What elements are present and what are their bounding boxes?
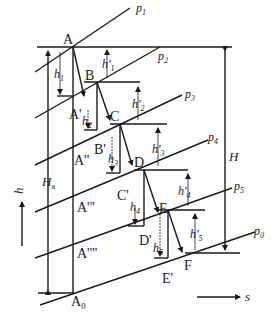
label-p5: p5 [233, 179, 244, 195]
label-h5: h5 [153, 241, 163, 257]
point-A-quad-prime: A'''' [77, 246, 97, 261]
label-h2: h2 [82, 114, 92, 130]
process-C-D [120, 124, 132, 165]
point-D-prime: D' [139, 233, 152, 248]
label-p0: p0 [253, 224, 264, 240]
label-H: H [228, 149, 239, 164]
point-C: C [110, 109, 119, 124]
point-D: D [134, 155, 144, 170]
label-h4: h4 [130, 200, 140, 216]
label-p4: p4 [207, 130, 218, 146]
axis-label-h: h [11, 188, 26, 195]
label-h3-prime: h'3 [152, 142, 165, 158]
label-h5-prime: h'5 [190, 227, 203, 243]
label-p3: p3 [184, 87, 195, 103]
label-h3: h3 [108, 152, 118, 168]
label-h4-prime: h'4 [178, 184, 191, 200]
label-Ha: Ha [41, 174, 55, 191]
label-p2: p2 [157, 49, 168, 65]
process-B-C [97, 82, 110, 120]
h-s-diagram: p1 p2 p3 p4 p5 p0 A B C D E F A' A'' A''… [0, 0, 278, 320]
point-E: E [159, 201, 168, 216]
process-A-B [73, 47, 84, 96]
axis-label-s: s [245, 289, 250, 304]
label-h1: h1 [54, 67, 64, 83]
point-A0: A₀ [71, 294, 86, 309]
label-p1: p1 [135, 1, 146, 17]
process-E-F [168, 210, 182, 252]
point-C-prime: C' [117, 188, 129, 203]
label-h1-prime: h'1 [102, 57, 115, 73]
point-A-prime: A' [69, 107, 82, 122]
process-D-E [144, 170, 158, 212]
point-A-triple-prime: A''' [77, 200, 95, 215]
isobar-p1 [35, 8, 130, 72]
point-F: F [184, 258, 192, 273]
point-B-prime: B' [94, 142, 106, 157]
label-h2-prime: h'2 [132, 97, 145, 113]
point-E-prime: E' [162, 271, 173, 286]
isobar-p5 [35, 188, 232, 258]
point-A: A [63, 32, 74, 47]
diagram-svg: p1 p2 p3 p4 p5 p0 A B C D E F A' A'' A''… [0, 0, 278, 320]
point-A-double-prime: A'' [74, 153, 89, 168]
point-B: B [85, 68, 94, 83]
